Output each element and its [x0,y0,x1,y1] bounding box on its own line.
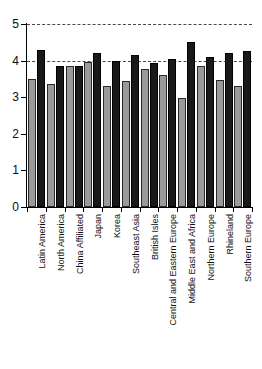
x-tick-mark [140,208,141,212]
y-tick-label: 5 [0,18,19,30]
bar-light-gray-bar [159,75,167,207]
bar-dark-bar [112,61,120,207]
bar-light-gray-bar [178,98,186,207]
x-tick-mark [215,208,216,212]
bar-light-gray-bar [66,66,74,207]
x-category-label: Northern Europe [207,214,216,281]
bar-dark-bar [243,51,251,207]
x-tick-mark [196,208,197,212]
x-tick-mark [177,208,178,212]
bar-dark-bar [150,63,158,207]
bar-light-gray-bar [197,66,205,207]
bar-group [178,24,195,207]
bar-group [159,24,176,207]
x-category-label: Southeast Asia [132,214,141,274]
x-tick-mark [46,208,47,212]
x-category-label: Latin America [38,214,47,269]
bar-group [141,24,158,207]
x-category-label: Middle East and Africa [188,214,197,304]
bar-group [84,24,101,207]
y-tick-label: 3 [0,91,19,103]
x-tick-mark [233,208,234,212]
bar-group [197,24,214,207]
bar-light-gray-bar [216,80,224,207]
y-tick-label: 0 [0,201,19,213]
x-category-label: Japan [94,214,103,239]
bar-dark-bar [168,59,176,207]
bar-group [103,24,120,207]
bar-light-gray-bar [103,86,111,207]
bar-dark-bar [56,66,64,207]
x-tick-mark [121,208,122,212]
bar-group [216,24,233,207]
x-category-label: North America [57,214,66,271]
bar-group [28,24,45,207]
bar-dark-bar [93,53,101,207]
bar-light-gray-bar [234,86,242,207]
bar-light-gray-bar [122,81,130,207]
bar-group [66,24,83,207]
x-tick-mark [65,208,66,212]
bar-group [47,24,64,207]
chart-page: 012345 Latin AmericaNorth AmericaChina A… [0,0,262,369]
x-tick-mark [102,208,103,212]
bar-dark-bar [206,57,214,207]
bar-dark-bar [187,42,195,207]
plot-area [27,24,252,207]
bar-light-gray-bar [141,69,149,207]
y-tick-label: 4 [0,55,19,67]
x-category-label: Southern Europe [244,214,253,282]
bar-dark-bar [37,50,45,207]
bar-dark-bar [225,53,233,207]
bar-light-gray-bar [47,84,55,207]
bar-light-gray-bar [28,79,36,207]
x-tick-mark [27,208,28,212]
x-tick-mark [158,208,159,212]
x-category-label: China Affiliated [76,214,85,274]
y-tick-label: 2 [0,128,19,140]
x-category-label: Central and Eastern Europe [169,214,178,326]
bar-group [234,24,251,207]
x-tick-mark [252,208,253,212]
bar-light-gray-bar [84,62,92,207]
bar-dark-bar [131,55,139,207]
x-category-label: Korea [113,214,122,238]
x-category-label: British Isles [151,214,160,260]
bar-group [122,24,139,207]
y-tick-label: 1 [0,164,19,176]
x-tick-mark [83,208,84,212]
bar-dark-bar [75,66,83,207]
x-category-label: Rhineland [226,214,235,255]
